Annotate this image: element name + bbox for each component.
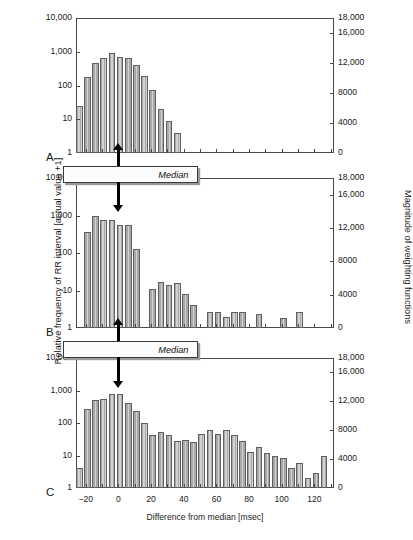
y-axis-right-tick-label: 4000 bbox=[338, 290, 394, 299]
x-axis-tick bbox=[216, 324, 217, 328]
median-arrow-down-shaft bbox=[117, 357, 120, 381]
y-axis-left-tick-label: 10 bbox=[16, 114, 72, 123]
panel-letter-b: B bbox=[46, 326, 54, 338]
histogram-bar bbox=[223, 430, 230, 488]
x-axis-tick bbox=[86, 324, 87, 328]
y-axis-left-tick bbox=[76, 216, 80, 217]
histogram-bar bbox=[174, 133, 181, 153]
x-axis-tick bbox=[298, 324, 299, 328]
plot-area bbox=[76, 18, 334, 153]
y-axis-left-tick bbox=[76, 253, 80, 254]
plot-area bbox=[76, 358, 334, 488]
x-axis-tick bbox=[249, 324, 250, 328]
histogram-bar bbox=[84, 409, 91, 488]
y-axis-left-tick bbox=[76, 456, 80, 457]
histogram-bar bbox=[100, 58, 107, 153]
y-axis-right-tick bbox=[330, 401, 334, 402]
y-axis-right-tick-label: 0 bbox=[338, 148, 394, 157]
histogram-bar bbox=[92, 63, 99, 153]
histogram-bar bbox=[109, 220, 116, 328]
x-axis-tick bbox=[233, 324, 234, 328]
y-axis-right-tick bbox=[330, 33, 334, 34]
x-axis-tick bbox=[314, 484, 315, 488]
y-axis-right-tick-label: 0 bbox=[338, 483, 394, 492]
y-axis-right-tick-label: 4000 bbox=[338, 454, 394, 463]
histogram-bar bbox=[305, 478, 312, 488]
x-axis-tick bbox=[298, 484, 299, 488]
histogram-bar bbox=[215, 434, 222, 488]
y-axis-right-tick bbox=[330, 372, 334, 373]
histogram-bar bbox=[141, 76, 148, 153]
y-axis-right-tick bbox=[330, 430, 334, 431]
histogram-bar bbox=[231, 435, 238, 488]
x-axis-tick bbox=[102, 484, 103, 488]
histogram-bar bbox=[256, 314, 263, 328]
histogram-bar bbox=[133, 65, 140, 153]
x-axis-tick bbox=[167, 484, 168, 488]
histogram-bar bbox=[166, 285, 173, 328]
y-axis-right-tick-label: 18,000 bbox=[338, 13, 394, 22]
x-axis-tick bbox=[151, 149, 152, 153]
x-axis-tick bbox=[135, 149, 136, 153]
x-axis-tick bbox=[331, 324, 332, 328]
histogram-bar bbox=[141, 423, 148, 488]
y-axis-left-tick bbox=[76, 391, 80, 392]
histogram-bar bbox=[133, 249, 140, 328]
x-axis-tick bbox=[200, 484, 201, 488]
histogram-bar bbox=[117, 57, 124, 153]
histogram-bar bbox=[117, 225, 124, 328]
y-axis-left-tick bbox=[76, 86, 80, 87]
y-axis-right-tick-label: 16,000 bbox=[338, 190, 394, 199]
x-axis-tick-label: 40 bbox=[168, 494, 200, 504]
x-axis-tick bbox=[249, 149, 250, 153]
y-axis-right-tick-label: 12,000 bbox=[338, 396, 394, 405]
histogram-bar bbox=[100, 220, 107, 328]
histogram-bar bbox=[117, 394, 124, 488]
y-axis-right-tick bbox=[330, 459, 334, 460]
y-axis-right-tick bbox=[330, 63, 334, 64]
x-axis-tick bbox=[184, 484, 185, 488]
panel-b: 10,0001,00010010118,00016,00012,00080004… bbox=[76, 178, 334, 328]
histogram-bar bbox=[174, 441, 181, 488]
y-axis-right-tick-label: 8000 bbox=[338, 88, 394, 97]
y-axis-right-tick-label: 12,000 bbox=[338, 58, 394, 67]
y-axis-left-tick bbox=[76, 52, 80, 53]
x-axis-tick-label: 20 bbox=[135, 494, 167, 504]
x-axis-tick bbox=[233, 484, 234, 488]
y-axis-right-tick-label: 12,000 bbox=[338, 223, 394, 232]
y-axis-right-tick-label: 8000 bbox=[338, 256, 394, 265]
histogram-bar bbox=[84, 232, 91, 328]
y-axis-right-tick-label: 4000 bbox=[338, 118, 394, 127]
histogram-bar bbox=[109, 53, 116, 153]
histogram-bar bbox=[182, 440, 189, 488]
histogram-bar bbox=[264, 453, 271, 488]
x-axis-tick bbox=[298, 149, 299, 153]
x-axis-tick bbox=[135, 324, 136, 328]
histogram-bar bbox=[288, 468, 295, 488]
panel-a: 10,0001,00010010118,00016,00012,00080004… bbox=[76, 18, 334, 153]
y-axis-left-tick-label: 100 bbox=[16, 418, 72, 427]
x-axis-tick bbox=[102, 324, 103, 328]
histogram-bar bbox=[272, 456, 279, 488]
x-axis-tick bbox=[282, 484, 283, 488]
y-axis-right-title: Magnitude of weighting functions bbox=[403, 137, 413, 377]
y-axis-left-tick-label: 1,000 bbox=[16, 386, 72, 395]
x-axis-tick-label: 60 bbox=[200, 494, 232, 504]
y-axis-right-tick-label: 16,000 bbox=[338, 28, 394, 37]
y-axis-left-tick bbox=[76, 291, 80, 292]
median-arrow-down-shaft bbox=[117, 182, 120, 205]
panel-c: 10,0001,00010010118,00016,00012,00080004… bbox=[76, 358, 334, 488]
y-axis-left-tick-label: 10 bbox=[16, 286, 72, 295]
panel-letter-a: A bbox=[46, 151, 54, 163]
x-axis-tick-label: 0 bbox=[102, 494, 134, 504]
x-axis-tick bbox=[135, 484, 136, 488]
median-callout-label: Median bbox=[158, 170, 188, 180]
x-axis-tick-label: −20 bbox=[70, 494, 102, 504]
x-axis-tick bbox=[86, 484, 87, 488]
x-axis-tick bbox=[200, 149, 201, 153]
y-axis-left-tick bbox=[76, 423, 80, 424]
panel-letter-c: C bbox=[46, 486, 54, 498]
histogram-bar bbox=[207, 312, 214, 328]
histogram-bar bbox=[125, 225, 132, 328]
histogram-bar bbox=[190, 305, 197, 328]
